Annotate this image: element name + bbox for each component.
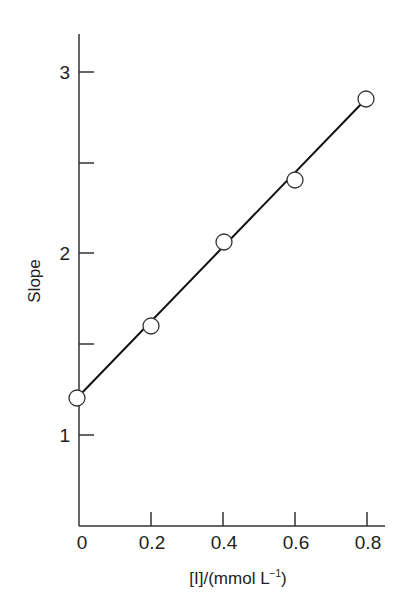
data-point [358, 91, 374, 107]
x-tick-label: 0.2 [139, 532, 165, 553]
x-axis-label: [I]/(mmol L−1) [189, 568, 286, 588]
y-tick-label: 2 [59, 243, 70, 264]
data-point [143, 318, 159, 334]
y-ticks [79, 72, 94, 435]
x-tick-label: 0.8 [355, 532, 381, 553]
x-tick-label: 0.4 [211, 532, 238, 553]
x-tick-label: 0.6 [283, 532, 309, 553]
y-tick-label: 3 [59, 62, 70, 83]
x-ticks [151, 512, 367, 526]
chart: 3 2 1 0 0.2 0.4 0.6 0.8 Slope [I]/(mmol … [0, 0, 416, 616]
data-point [69, 390, 85, 406]
y-axis-label: Slope [25, 259, 44, 302]
data-point [216, 234, 232, 250]
x-tick-label: 0 [77, 532, 88, 553]
y-tick-label: 1 [59, 425, 70, 446]
data-point [287, 172, 303, 188]
